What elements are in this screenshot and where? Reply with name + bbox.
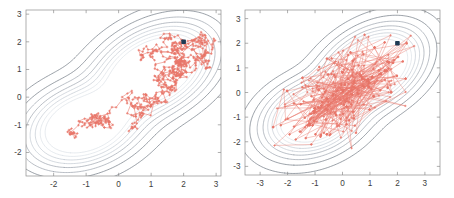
mcmc-sample-marker — [390, 35, 392, 37]
mcmc-sample-marker — [320, 136, 322, 138]
y-tick-label: 0 — [17, 93, 22, 102]
mcmc-sample-marker — [126, 112, 128, 114]
y-tick-label: 1 — [17, 65, 22, 74]
x-tick-label: -1 — [82, 180, 90, 189]
mcmc-sample-marker — [183, 66, 185, 68]
mcmc-sample-marker — [211, 43, 213, 45]
y-tick-label: -3 — [233, 162, 241, 171]
mcmc-sample-marker — [153, 79, 155, 81]
mcmc-sample-marker — [155, 92, 157, 94]
mcmc-sample-marker — [168, 66, 170, 68]
mcmc-sample-marker — [84, 118, 86, 120]
mcmc-sample-marker — [192, 45, 194, 47]
axes-frame — [26, 10, 221, 176]
x-tick-label: 1 — [368, 179, 373, 188]
mcmc-sample-marker — [147, 52, 149, 54]
y-tick-label: 2 — [236, 39, 241, 48]
y-tick-label: 0 — [236, 89, 241, 98]
mcmc-sample-marker — [90, 113, 92, 115]
x-tick-label: 1 — [149, 180, 154, 189]
contour-group — [7, 0, 228, 188]
mcmc-sample-marker — [355, 132, 357, 134]
mcmc-sample-marker — [351, 147, 353, 149]
x-tick-label: 2 — [395, 179, 400, 188]
mcmc-sample-marker — [142, 51, 144, 53]
plot-content — [239, 6, 448, 173]
mcmc-sample-marker — [95, 125, 97, 127]
mcmc-sample-marker — [210, 53, 212, 55]
mcmc-sample-marker — [195, 41, 197, 43]
right-plot-svg: -3-2-10123-3-2-10123 — [227, 0, 454, 198]
mcmc-sample-marker — [143, 93, 145, 95]
contour-line — [7, 0, 228, 111]
mcmc-sample-marker — [200, 53, 202, 55]
y-tick-label: -1 — [233, 113, 241, 122]
mcmc-sample-marker — [187, 40, 189, 42]
y-tick-label: -2 — [233, 138, 241, 147]
mcmc-sample-marker — [405, 105, 407, 107]
mcmc-sample-marker — [135, 116, 137, 118]
x-tick-label: 0 — [116, 180, 121, 189]
panel-right-independence-sampler: -3-2-10123-3-2-10123 — [227, 0, 454, 198]
start-marker — [181, 40, 186, 45]
x-tick-label: -2 — [50, 180, 58, 189]
left-plot-svg: -2-10123-2-10123 — [0, 0, 227, 198]
x-tick-label: -3 — [256, 179, 264, 188]
panel-left-random-walk: -2-10123-2-10123 — [0, 0, 227, 198]
x-tick-label: 3 — [423, 179, 428, 188]
mcmc-sample-marker — [158, 84, 160, 86]
start-marker — [395, 41, 400, 46]
mcmc-sample-marker — [186, 76, 188, 78]
y-tick-label: 1 — [236, 64, 241, 73]
x-tick-label: 3 — [214, 180, 219, 189]
x-tick-label: -1 — [311, 179, 319, 188]
plot-content — [7, 0, 228, 188]
contour-line — [30, 26, 210, 163]
y-tick-label: -2 — [14, 148, 22, 157]
y-tick-label: 2 — [17, 38, 22, 47]
figure-root: -2-10123-2-10123 -3-2-10123-3-2-10123 — [0, 0, 454, 198]
mcmc-sample-marker — [138, 49, 140, 51]
mcmc-sample-marker — [157, 102, 159, 104]
mcmc-sample-marker — [97, 115, 99, 117]
y-tick-label: 3 — [236, 15, 241, 24]
contour-line — [7, 60, 228, 188]
mcmc-sample-marker — [154, 68, 156, 70]
mcmc-sample-marker — [150, 114, 152, 116]
y-tick-label: -1 — [14, 121, 22, 130]
mcmc-sample-marker — [171, 52, 173, 54]
mcmc-sample-marker — [126, 102, 128, 104]
x-tick-label: 2 — [181, 180, 186, 189]
mcmc-sample-marker — [195, 45, 197, 47]
mcmc-sample-marker — [82, 121, 84, 123]
axis-ticks: -2-10123-2-10123 — [14, 10, 221, 189]
mcmc-sample-marker — [202, 47, 204, 49]
x-tick-label: 0 — [340, 179, 345, 188]
x-tick-label: -2 — [284, 179, 292, 188]
y-tick-label: 3 — [17, 10, 22, 19]
mcmc-sample-marker — [163, 86, 165, 88]
mcmc-sample-marker — [109, 112, 111, 114]
mcmc-sample-marker — [393, 76, 395, 78]
